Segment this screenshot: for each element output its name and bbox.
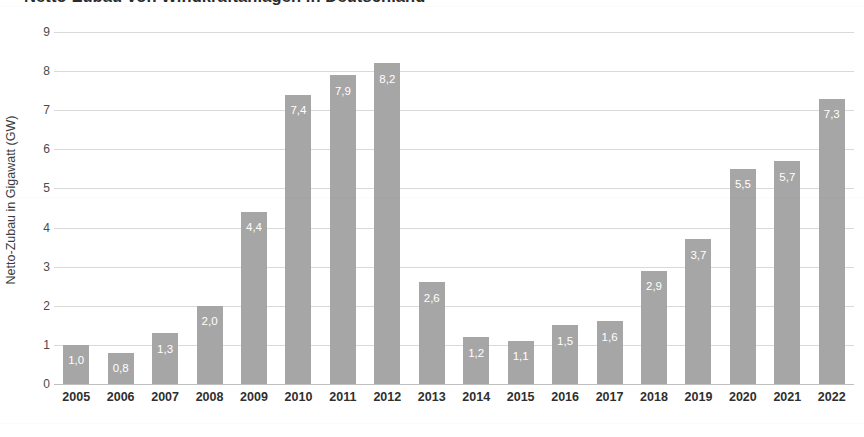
bar-slot: 5,5: [730, 32, 756, 384]
bar[interactable]: [285, 95, 311, 384]
bar-value-label: 1,0: [63, 355, 89, 367]
x-axis-tick-label: 2021: [765, 390, 809, 405]
y-axis-tick-labels: 0123456789: [30, 32, 50, 384]
x-axis-tick-label: 2014: [454, 390, 498, 405]
y-axis-tick-label: 0: [43, 378, 50, 390]
bar-slot: 7,3: [819, 32, 845, 384]
bar-slot: 1,6: [597, 32, 623, 384]
x-axis-tick-label: 2018: [632, 390, 676, 405]
bar-value-label: 1,2: [463, 348, 489, 360]
bar-value-label: 0,8: [108, 363, 134, 375]
y-axis-tick-label: 3: [43, 261, 50, 273]
x-axis-tick-label: 2009: [232, 390, 276, 405]
bar-series: 1,00,81,32,04,47,47,98,22,61,21,11,51,62…: [54, 32, 854, 384]
x-axis-tick-label: 2016: [543, 390, 587, 405]
bar-value-label: 8,2: [374, 74, 400, 86]
bar-value-label: 7,3: [819, 109, 845, 121]
bar-value-label: 2,6: [419, 293, 445, 305]
bar-value-label: 3,7: [685, 250, 711, 262]
bar-value-label: 5,7: [774, 172, 800, 184]
x-axis-tick-label: 2015: [498, 390, 542, 405]
bar-value-label: 7,4: [285, 105, 311, 117]
bar-slot: 2,6: [419, 32, 445, 384]
x-axis-tick-label: 2006: [98, 390, 142, 405]
bar-value-label: 1,5: [552, 336, 578, 348]
bar-slot: 8,2: [374, 32, 400, 384]
x-axis-tick-label: 2013: [410, 390, 454, 405]
bar-slot: 1,5: [552, 32, 578, 384]
bar-slot: 2,0: [197, 32, 223, 384]
x-axis-tick-label: 2011: [321, 390, 365, 405]
bar-value-label: 5,5: [730, 179, 756, 191]
bar-slot: 0,8: [108, 32, 134, 384]
x-axis-tick-labels: 2005200620072008200920102011201220132014…: [54, 390, 854, 412]
bar[interactable]: [330, 75, 356, 384]
bar[interactable]: [374, 63, 400, 384]
bar-value-label: 1,1: [508, 351, 534, 363]
y-axis-tick-label: 2: [43, 300, 50, 312]
bar-value-label: 1,6: [597, 332, 623, 344]
x-axis-tick-label: 2008: [187, 390, 231, 405]
y-axis-tick-label: 1: [43, 339, 50, 351]
bar[interactable]: [152, 333, 178, 384]
x-axis-tick-label: 2007: [143, 390, 187, 405]
bar-slot: 1,1: [508, 32, 534, 384]
y-axis-title: Netto-Zubau in Gigawatt (GW): [0, 0, 22, 400]
bar-value-label: 2,9: [641, 281, 667, 293]
x-axis-tick-label: 2019: [676, 390, 720, 405]
chart-title: Netto-Zubau von Windkraftanlagen in Deut…: [24, 0, 724, 9]
bar[interactable]: [819, 99, 845, 385]
bar-slot: 7,9: [330, 32, 356, 384]
bar-slot: 2,9: [641, 32, 667, 384]
bar[interactable]: [463, 337, 489, 384]
bar-value-label: 7,9: [330, 86, 356, 98]
scan-artifact: [0, 423, 864, 424]
x-axis-tick-label: 2012: [365, 390, 409, 405]
bar-slot: 3,7: [685, 32, 711, 384]
bar[interactable]: [774, 161, 800, 384]
x-axis-tick-label: 2017: [587, 390, 631, 405]
bar-slot: 4,4: [241, 32, 267, 384]
bar-value-label: 2,0: [197, 316, 223, 328]
x-axis-tick-label: 2005: [54, 390, 98, 405]
bar-value-label: 1,3: [152, 344, 178, 356]
gridline: [54, 384, 854, 385]
y-axis-tick-label: 7: [43, 104, 50, 116]
bar-value-label: 4,4: [241, 222, 267, 234]
y-axis-tick-label: 5: [43, 182, 50, 194]
bar-slot: 1,0: [63, 32, 89, 384]
bar-slot: 7,4: [285, 32, 311, 384]
y-axis-title-label: Netto-Zubau in Gigawatt (GW): [4, 116, 18, 285]
bar[interactable]: [730, 169, 756, 384]
bar-slot: 1,2: [463, 32, 489, 384]
bar[interactable]: [241, 212, 267, 384]
bar-slot: 5,7: [774, 32, 800, 384]
y-axis-tick-label: 4: [43, 222, 50, 234]
x-axis-tick-label: 2010: [276, 390, 320, 405]
y-axis-tick-label: 9: [43, 26, 50, 38]
x-axis-tick-label: 2022: [810, 390, 854, 405]
y-axis-tick-label: 6: [43, 143, 50, 155]
bar-slot: 1,3: [152, 32, 178, 384]
x-axis-tick-label: 2020: [721, 390, 765, 405]
y-axis-tick-label: 8: [43, 65, 50, 77]
